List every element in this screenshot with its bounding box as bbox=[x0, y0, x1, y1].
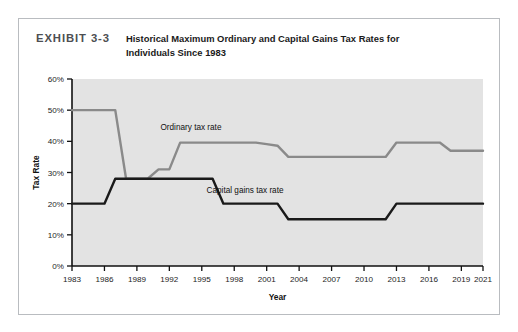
x-axis-tick-label: 1983 bbox=[63, 275, 82, 284]
x-axis-tick-label: 1998 bbox=[225, 275, 244, 284]
x-axis-ticks: 1983198619891992199519982001200420072010… bbox=[63, 266, 493, 284]
y-axis-ticks: 0%10%20%30%40%50%60% bbox=[48, 75, 72, 271]
y-axis-tick-label: 30% bbox=[48, 169, 64, 178]
tax-rate-line-chart: 0%10%20%30%40%50%60% 1983198619891992199… bbox=[19, 19, 501, 316]
series-annotation-ordinary-tax-rate: Ordinary tax rate bbox=[160, 123, 221, 132]
x-axis-tick-label: 2019 bbox=[452, 275, 471, 284]
y-axis-title: Tax Rate bbox=[31, 155, 41, 190]
x-axis-tick-label: 1986 bbox=[95, 275, 114, 284]
y-axis-tick-label: 40% bbox=[48, 137, 64, 146]
y-axis-tick-label: 50% bbox=[48, 106, 64, 115]
plot-background bbox=[72, 79, 483, 266]
x-axis-tick-label: 2001 bbox=[258, 275, 277, 284]
y-axis-tick-label: 20% bbox=[48, 200, 64, 209]
x-axis-tick-label: 1992 bbox=[160, 275, 179, 284]
series-annotation-capital-gains-tax-rate: Capital gains tax rate bbox=[207, 186, 284, 195]
exhibit-figure-frame: EXHIBIT 3-3 Historical Maximum Ordinary … bbox=[18, 18, 500, 315]
x-axis-tick-label: 1995 bbox=[193, 275, 212, 284]
y-axis-tick-label: 0% bbox=[52, 262, 64, 271]
x-axis-title: Year bbox=[269, 292, 287, 302]
x-axis-tick-label: 2010 bbox=[355, 275, 374, 284]
x-axis-tick-label: 2021 bbox=[474, 275, 493, 284]
y-axis-tick-label: 10% bbox=[48, 231, 64, 240]
x-axis-tick-label: 2007 bbox=[323, 275, 342, 284]
chart-area: 0%10%20%30%40%50%60% 1983198619891992199… bbox=[19, 19, 501, 316]
x-axis-tick-label: 2004 bbox=[290, 275, 309, 284]
y-axis-tick-label: 60% bbox=[48, 75, 64, 84]
x-axis-tick-label: 2013 bbox=[387, 275, 406, 284]
x-axis-tick-label: 1989 bbox=[128, 275, 147, 284]
x-axis-tick-label: 2016 bbox=[420, 275, 439, 284]
